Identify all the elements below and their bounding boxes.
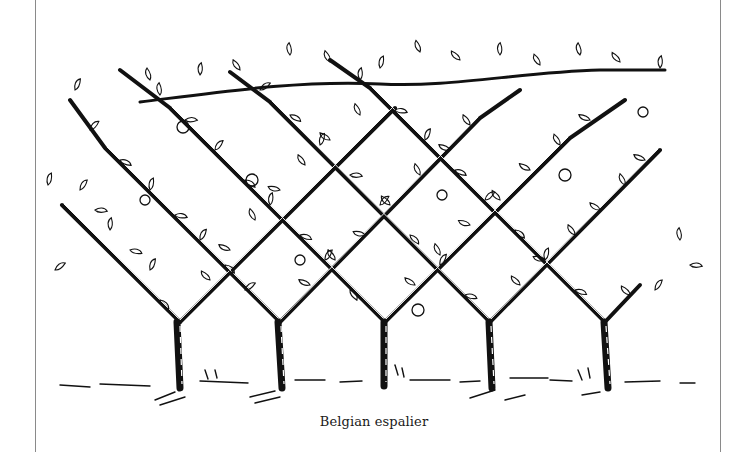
lattice-branches (62, 60, 665, 322)
foliage (44, 40, 703, 311)
ground (60, 365, 695, 410)
figure-caption: Belgian espalier (0, 414, 748, 429)
right-frame-rule (720, 0, 721, 452)
belgian-espalier-illustration (36, 0, 720, 410)
